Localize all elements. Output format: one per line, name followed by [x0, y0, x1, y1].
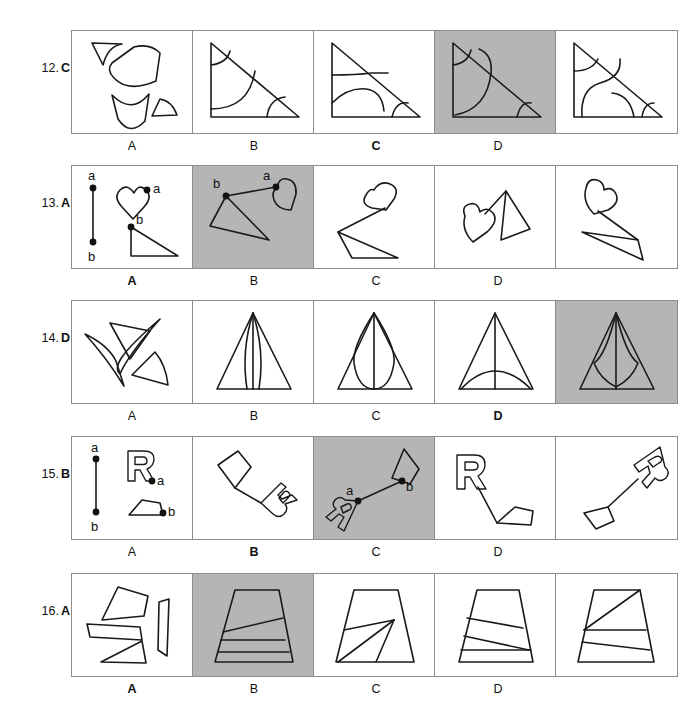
prompt-figure-14 [72, 301, 193, 403]
point-label-b: b [168, 504, 175, 519]
option-figure-15-C [435, 437, 556, 539]
option-grid-12 [71, 30, 678, 134]
worksheet-sheet: 12.C [0, 0, 682, 713]
option-letter-15-A: A [71, 543, 193, 561]
option-figure-12-A [193, 31, 314, 133]
option-cell-16-D[interactable] [556, 574, 677, 676]
prompt-cell-13: a b a b [72, 166, 193, 268]
option-figure-13-D [556, 166, 677, 268]
option-figure-16-C [435, 574, 556, 676]
option-cell-14-B[interactable] [314, 301, 435, 403]
question-number: 14. [42, 331, 59, 345]
point-label-a: a [153, 181, 161, 196]
question-label-14: 14.D [24, 332, 70, 345]
option-letter-12-C: C [315, 137, 437, 155]
point-label-b: b [213, 176, 220, 191]
option-figure-16-A [193, 574, 314, 676]
letter-r-glyph [261, 483, 297, 517]
option-grid-15: a b a b [71, 436, 678, 540]
option-letter-16-C: C [315, 680, 437, 698]
prompt-cell-12 [72, 31, 193, 133]
option-letter-14-D: D [437, 407, 559, 425]
option-letter-16-B: B [193, 680, 315, 698]
option-letter-15-C: C [315, 543, 437, 561]
option-letter-15-B: B [193, 543, 315, 561]
option-figure-15-A [193, 437, 314, 539]
option-cell-13-C[interactable] [435, 166, 556, 268]
question-answer-key: B [61, 467, 70, 481]
option-cell-12-B[interactable] [314, 31, 435, 133]
question-label-13: 13.A [24, 197, 70, 210]
point-label-a: a [263, 168, 271, 183]
letter-r-glyph [326, 498, 358, 532]
question-number: 12. [42, 61, 59, 75]
option-letter-14-A: A [71, 407, 193, 425]
option-figure-13-A: b a [193, 166, 314, 268]
question-answer-key: A [61, 604, 70, 618]
option-letter-16-D: D [437, 680, 559, 698]
option-cell-13-A[interactable]: b a [193, 166, 314, 268]
option-figure-15-D [556, 437, 677, 539]
option-cell-14-D[interactable] [556, 301, 677, 403]
option-figure-16-D [556, 574, 677, 676]
option-cell-14-A[interactable] [193, 301, 314, 403]
question-number: 15. [42, 467, 59, 481]
prompt-cell-15: a b a b [72, 437, 193, 539]
option-letter-12-A: A [71, 137, 193, 155]
prompt-figure-16 [72, 574, 193, 676]
option-letter-12-B: B [193, 137, 315, 155]
option-letter-15-D: D [437, 543, 559, 561]
option-figure-13-C [435, 166, 556, 268]
option-cell-15-B[interactable]: b a [314, 437, 435, 539]
point-label-a: a [346, 483, 354, 498]
prompt-cell-16 [72, 574, 193, 676]
option-letter-row-13: ABCD [71, 271, 559, 289]
option-letter-12-D: D [437, 137, 559, 155]
option-figure-12-C [435, 31, 556, 133]
letter-r-glyph [457, 455, 486, 489]
option-cell-16-B[interactable] [314, 574, 435, 676]
letter-r-glyph [128, 451, 154, 481]
option-letter-14-B: B [193, 407, 315, 425]
question-answer-key: D [61, 331, 70, 345]
prompt-figure-12 [72, 31, 193, 133]
point-label-a: a [88, 168, 96, 183]
option-cell-15-C[interactable] [435, 437, 556, 539]
option-figure-14-D [556, 301, 677, 403]
point-label-a: a [91, 440, 99, 455]
question-answer-key: C [61, 61, 70, 75]
option-cell-15-A[interactable] [193, 437, 314, 539]
option-grid-13: a b a b b a [71, 165, 678, 269]
option-cell-12-D[interactable] [556, 31, 677, 133]
option-cell-13-B[interactable] [314, 166, 435, 268]
option-letter-row-12: ABCD [71, 136, 559, 154]
option-letter-16-A: A [71, 680, 193, 698]
point-label-b: b [88, 249, 95, 264]
option-letter-row-16: ABCD [71, 679, 559, 697]
option-figure-13-B [314, 166, 435, 268]
option-cell-12-C[interactable] [435, 31, 556, 133]
question-answer-key: A [61, 196, 70, 210]
point-label-b: b [136, 212, 143, 227]
option-cell-16-A[interactable] [193, 574, 314, 676]
option-cell-16-C[interactable] [435, 574, 556, 676]
question-label-12: 12.C [24, 62, 70, 75]
option-letter-13-A: A [71, 272, 193, 290]
option-grid-14 [71, 300, 678, 404]
question-number: 16. [42, 604, 59, 618]
option-letter-14-C: C [315, 407, 437, 425]
option-figure-12-B [314, 31, 435, 133]
option-figure-15-B: b a [314, 437, 435, 539]
question-label-15: 15.B [24, 468, 70, 481]
option-figure-14-B [314, 301, 435, 403]
option-figure-12-D [556, 31, 677, 133]
option-cell-15-D[interactable] [556, 437, 677, 539]
option-cell-14-C[interactable] [435, 301, 556, 403]
option-cell-12-A[interactable] [193, 31, 314, 133]
option-letter-row-15: ABCD [71, 542, 559, 560]
option-letter-row-14: ABCD [71, 406, 559, 424]
option-letter-13-B: B [193, 272, 315, 290]
prompt-figure-15: a b a b [72, 437, 193, 539]
option-figure-14-C [435, 301, 556, 403]
option-cell-13-D[interactable] [556, 166, 677, 268]
